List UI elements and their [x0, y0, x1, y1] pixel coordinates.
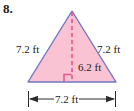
base-length-label: 7.2 ft	[54, 94, 79, 105]
geometry-problem-figure: 8. 7.2 ft 7.2 ft 6.2 ft 7.2 ft	[0, 0, 134, 111]
right-side-length-label: 7.2 ft	[97, 44, 120, 55]
base-dimension-arrow-right	[106, 96, 115, 102]
left-side-length-label: 7.2 ft	[16, 44, 39, 55]
base-dimension-arrow-left	[29, 96, 38, 102]
height-length-label: 6.2 ft	[78, 62, 101, 73]
